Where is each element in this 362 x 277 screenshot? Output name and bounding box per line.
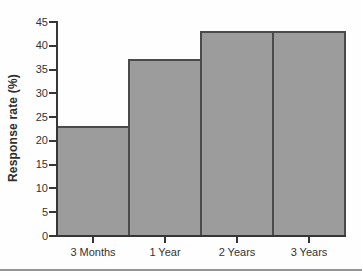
y-tick-mark — [49, 116, 56, 118]
y-tick-mark — [49, 235, 56, 237]
y-tick-mark — [49, 211, 56, 213]
y-tick-label: 20 — [16, 134, 48, 147]
x-axis-line — [56, 235, 346, 237]
x-tick-label-3-years: 3 Years — [269, 246, 349, 259]
y-tick-mark — [49, 164, 56, 166]
y-tick-mark — [49, 92, 56, 94]
y-tick-label: 10 — [16, 182, 48, 195]
x-tick-label-1-year: 1 Year — [125, 246, 205, 259]
x-tick-mark — [236, 237, 238, 243]
y-tick-mark — [49, 140, 56, 142]
x-tick-mark — [92, 237, 94, 243]
x-tick-mark — [164, 237, 166, 243]
y-tick-label: 35 — [16, 63, 48, 76]
bar-3-years — [272, 31, 346, 237]
y-tick-label: 15 — [16, 158, 48, 171]
y-tick-label: 40 — [16, 39, 48, 52]
y-tick-label: 30 — [16, 87, 48, 100]
bottom-divider-rule — [0, 269, 362, 271]
bar-chart-figure: Response rate (%) 0510152025303540453 Mo… — [0, 0, 362, 277]
y-tick-label: 45 — [16, 16, 48, 29]
x-tick-label-3-months: 3 Months — [53, 246, 133, 259]
x-tick-mark — [308, 237, 310, 243]
y-tick-mark — [49, 69, 56, 71]
y-tick-mark — [49, 187, 56, 189]
x-tick-label-2-years: 2 Years — [197, 246, 277, 259]
bar-2-years — [200, 31, 274, 237]
bar-1-year — [128, 59, 202, 237]
bar-3-months — [56, 126, 130, 237]
y-axis-line — [56, 21, 58, 237]
y-tick-label: 0 — [16, 230, 48, 243]
y-tick-mark — [49, 45, 56, 47]
y-tick-mark — [49, 21, 56, 23]
y-tick-label: 5 — [16, 206, 48, 219]
y-tick-label: 25 — [16, 111, 48, 124]
